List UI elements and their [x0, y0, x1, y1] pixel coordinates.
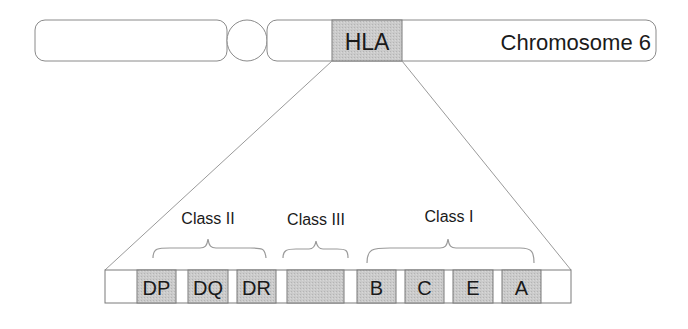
zoom-line-left: [105, 61, 332, 270]
gene-dp-label: DP: [143, 277, 171, 299]
chromosome-left-arm: [35, 20, 227, 61]
gene-c-label: C: [417, 277, 431, 299]
chromosome-label: Chromosome 6: [501, 30, 651, 55]
hla-diagram: HLA Chromosome 6 Class II Class III Clas…: [0, 0, 688, 329]
gene-dr-label: DR: [242, 277, 271, 299]
gene-b-label: B: [370, 277, 383, 299]
class-i-brace: [367, 239, 534, 263]
class-ii-brace: [153, 239, 266, 258]
chromosome-6: HLA Chromosome 6: [35, 20, 656, 61]
class-iii-label: Class III: [287, 211, 345, 228]
class-iii-region-box: [287, 270, 344, 303]
zoom-line-right: [402, 61, 571, 270]
gene-dq-label: DQ: [193, 277, 223, 299]
hla-gene-bar: DP DQ DR B C E A: [105, 270, 571, 303]
class-iii-brace: [283, 241, 348, 258]
gene-e-label: E: [466, 277, 479, 299]
centromere: [227, 20, 267, 61]
hla-region-label: HLA: [345, 29, 390, 55]
gene-a-label: A: [515, 277, 529, 299]
class-ii-label: Class II: [181, 210, 234, 227]
class-i-label: Class I: [425, 208, 474, 225]
